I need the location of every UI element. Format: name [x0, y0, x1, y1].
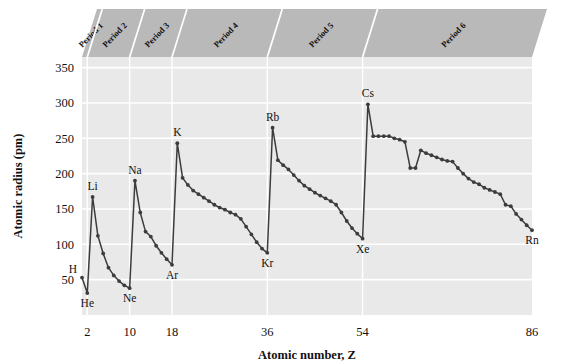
element-label-he: He — [81, 297, 94, 309]
data-point — [366, 102, 370, 106]
data-point — [361, 237, 365, 241]
data-point — [329, 199, 333, 203]
element-label-na: Na — [128, 164, 141, 176]
data-point — [165, 257, 169, 261]
data-point — [85, 291, 89, 295]
element-label-rn: Rn — [525, 234, 539, 246]
plot-area — [82, 57, 532, 315]
data-point — [488, 188, 492, 192]
data-point — [297, 179, 301, 183]
data-point — [302, 184, 306, 188]
element-label-li: Li — [87, 180, 97, 192]
data-point — [170, 263, 174, 267]
data-point — [223, 208, 227, 212]
element-label-ne: Ne — [123, 292, 136, 304]
data-point — [154, 244, 158, 248]
data-point — [419, 148, 423, 152]
data-point — [175, 141, 179, 145]
data-point — [482, 186, 486, 190]
data-point — [91, 195, 95, 199]
data-point — [265, 251, 269, 255]
data-point — [382, 134, 386, 138]
data-point — [133, 179, 137, 183]
data-point — [430, 153, 434, 157]
data-point — [414, 166, 418, 170]
element-label-kr: Kr — [261, 257, 273, 269]
data-point — [456, 166, 460, 170]
data-point — [324, 196, 328, 200]
data-point — [451, 160, 455, 164]
x-tick-label: 54 — [356, 325, 369, 339]
plot-background — [82, 57, 532, 315]
data-point — [191, 189, 195, 193]
data-point — [334, 203, 338, 207]
data-point — [350, 226, 354, 230]
y-tick-label: 200 — [55, 167, 74, 181]
y-tick-label: 100 — [55, 238, 74, 252]
data-point — [440, 158, 444, 162]
data-point — [371, 134, 375, 138]
element-label-ar: Ar — [166, 269, 178, 281]
data-point — [218, 206, 222, 210]
data-point — [96, 234, 100, 238]
data-point — [313, 191, 317, 195]
x-tick-label: 36 — [261, 325, 274, 339]
data-point — [138, 211, 142, 215]
element-label-cs: Cs — [362, 87, 375, 99]
data-point — [255, 240, 259, 244]
data-point — [308, 187, 312, 191]
period-band-group: Period 1Period 2Period 3Period 4Period 5… — [76, 9, 547, 57]
y-tick-label: 300 — [55, 96, 74, 110]
data-point — [144, 230, 148, 234]
chart-figure: Period 1Period 2Period 3Period 4Period 5… — [0, 0, 574, 363]
data-point — [514, 212, 518, 216]
data-point — [292, 173, 296, 177]
data-point — [392, 136, 396, 140]
y-tick-label: 150 — [55, 202, 74, 216]
data-point — [186, 183, 190, 187]
data-point — [472, 180, 476, 184]
data-point — [149, 235, 153, 239]
data-point — [197, 192, 201, 196]
data-point — [525, 223, 529, 227]
data-point — [107, 266, 111, 270]
data-point — [530, 228, 534, 232]
data-point — [287, 167, 291, 171]
x-tick-label: 10 — [123, 325, 136, 339]
data-point — [520, 218, 524, 222]
data-point — [387, 134, 391, 138]
data-point — [398, 138, 402, 142]
data-point — [250, 233, 254, 237]
data-point — [504, 203, 508, 207]
data-point — [234, 213, 238, 217]
data-point — [435, 155, 439, 159]
data-point — [445, 159, 449, 163]
data-point — [340, 211, 344, 215]
data-point — [276, 158, 280, 162]
y-tick-label: 250 — [55, 132, 74, 146]
y-tick-label: 50 — [62, 273, 75, 287]
x-tick-label: 2 — [84, 325, 90, 339]
data-point — [122, 283, 126, 287]
data-point — [355, 232, 359, 236]
data-point — [493, 190, 497, 194]
x-tick-label: 86 — [526, 325, 539, 339]
data-point — [244, 225, 248, 229]
data-point — [112, 274, 116, 278]
data-point — [424, 151, 428, 155]
data-point — [160, 251, 164, 255]
data-point — [212, 203, 216, 207]
data-point — [509, 204, 513, 208]
data-point — [403, 140, 407, 144]
x-tick-label: 18 — [166, 325, 179, 339]
data-point — [461, 172, 465, 176]
data-point — [318, 194, 322, 198]
data-point — [260, 247, 264, 251]
data-point — [228, 211, 232, 215]
element-label-rb: Rb — [266, 111, 280, 123]
element-label-xe: Xe — [356, 243, 369, 255]
data-point — [128, 286, 132, 290]
data-point — [202, 196, 206, 200]
data-point — [207, 199, 211, 203]
data-point — [498, 192, 502, 196]
